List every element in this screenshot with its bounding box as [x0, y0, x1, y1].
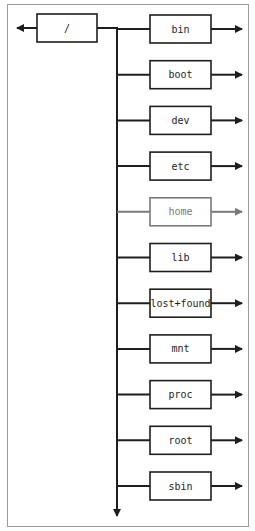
root-label: /: [64, 23, 70, 34]
child-label: lost+found: [150, 298, 210, 309]
child-label: home: [168, 206, 192, 217]
child-label: mnt: [171, 343, 189, 354]
child-node-mnt: mnt: [117, 335, 242, 363]
child-label: etc: [171, 161, 189, 172]
child-label: boot: [168, 69, 192, 80]
root-node: /: [17, 14, 118, 42]
child-node-home: home: [117, 198, 242, 226]
child-node-dev: dev: [117, 106, 242, 134]
child-node-bin: bin: [117, 15, 242, 43]
child-label: proc: [168, 389, 192, 400]
child-node-boot: boot: [117, 61, 242, 89]
directory-tree-diagram: / binbootdevetchomeliblost+foundmntprocr…: [0, 0, 255, 531]
child-node-root: root: [117, 426, 242, 454]
child-label: bin: [171, 24, 189, 35]
child-label: root: [168, 435, 192, 446]
child-node-sbin: sbin: [117, 472, 242, 500]
child-node-proc: proc: [117, 381, 242, 409]
child-nodes: binbootdevetchomeliblost+foundmntprocroo…: [117, 15, 242, 500]
child-node-etc: etc: [117, 152, 242, 180]
child-node-lib: lib: [117, 244, 242, 272]
child-label: lib: [171, 252, 189, 263]
child-label: dev: [171, 115, 189, 126]
child-node-lost-found: lost+found: [117, 289, 242, 317]
child-label: sbin: [168, 481, 192, 492]
